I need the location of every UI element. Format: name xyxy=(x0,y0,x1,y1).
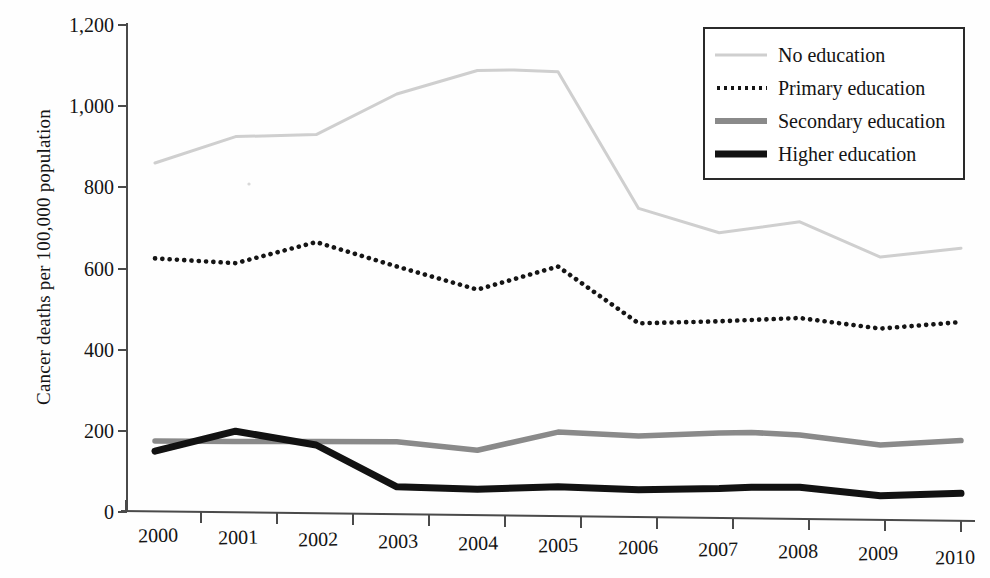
y-axis-ticks xyxy=(118,25,127,512)
legend-item-primary-education: Primary education xyxy=(715,71,953,104)
legend-item-higher-education: Higher education xyxy=(715,137,953,170)
chart-figure: Cancer deaths per 100,000 population 1,2… xyxy=(0,0,990,578)
series-line-primary-education xyxy=(155,242,961,329)
legend-swatch-dotted-line-icon xyxy=(715,81,767,95)
legend-label: Primary education xyxy=(778,78,925,98)
legend-label: No education xyxy=(778,45,885,65)
legend-swatch-line-icon xyxy=(715,48,767,62)
legend-label: Higher education xyxy=(778,144,916,164)
legend-swatch-line-icon xyxy=(715,147,767,161)
legend-label: Secondary education xyxy=(778,111,945,131)
x-axis-line xyxy=(121,511,975,521)
scan-speck xyxy=(247,182,250,185)
legend-swatch-line-icon xyxy=(715,114,767,128)
chart-legend: No education Primary education Secondary… xyxy=(703,27,965,180)
legend-item-no-education: No education xyxy=(715,38,953,71)
legend-item-secondary-education: Secondary education xyxy=(715,104,953,137)
